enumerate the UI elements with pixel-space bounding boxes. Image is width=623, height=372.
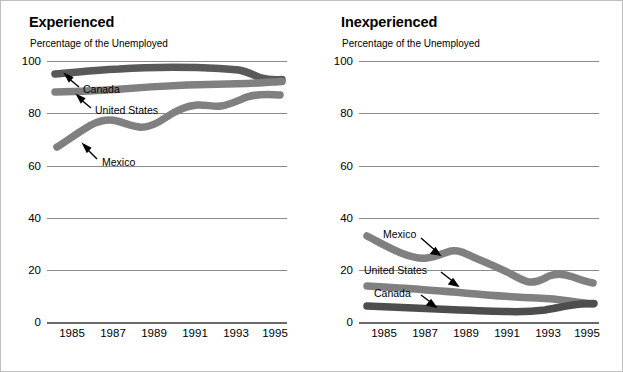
annotation-mexico: Mexico <box>383 228 416 240</box>
series-lines-experienced <box>47 61 287 323</box>
xtick-label: 1987 <box>412 327 438 339</box>
line-mexico <box>57 94 280 147</box>
annotation-united-states: United States <box>95 104 158 116</box>
xtick-label: 1989 <box>141 327 167 339</box>
panel-inexperienced: Inexperienced Percentage of the Unemploy… <box>313 1 623 372</box>
series-lines-inexperienced <box>359 61 599 323</box>
page-title: Inexperienced <box>341 14 437 30</box>
ytick-label: 100 <box>334 55 353 67</box>
ytick-label: 40 <box>340 212 353 224</box>
annotation-canada: Canada <box>83 83 120 95</box>
xtick-label: 1995 <box>574 327 600 339</box>
xtick-label: 1991 <box>494 327 520 339</box>
ytick-label: 60 <box>340 160 353 172</box>
annotation-united-states: United States <box>364 264 427 276</box>
ytick-label: 20 <box>340 264 353 276</box>
ytick-label: 80 <box>28 107 41 119</box>
xtick-label: 1993 <box>535 327 561 339</box>
line-canada <box>55 67 282 80</box>
xtick-label: 1989 <box>453 327 479 339</box>
panel-experienced: Experienced Percentage of the Unemployed… <box>1 1 312 372</box>
ytick-label: 80 <box>340 107 353 119</box>
xtick-label: 1985 <box>59 327 85 339</box>
annotation-canada: Canada <box>374 287 411 299</box>
line-canada <box>367 304 594 312</box>
plot-area-inexperienced: 100 80 60 40 20 0 <box>359 61 599 323</box>
xtick-label: 1995 <box>262 327 288 339</box>
xtick-label: 1993 <box>223 327 249 339</box>
ytick-label: 60 <box>28 160 41 172</box>
ytick-label: 0 <box>35 316 41 328</box>
ytick-label: 100 <box>22 55 41 67</box>
annotation-mexico: Mexico <box>102 156 135 168</box>
ytick-label: 40 <box>28 212 41 224</box>
chart-figure: Experienced Percentage of the Unemployed… <box>0 0 623 372</box>
panel-subtitle: Percentage of the Unemployed <box>30 38 168 49</box>
ytick-label: 0 <box>347 316 353 328</box>
xtick-label: 1985 <box>371 327 397 339</box>
ytick-label: 20 <box>28 264 41 276</box>
xtick-label: 1991 <box>182 327 208 339</box>
panel-subtitle: Percentage of the Unemployed <box>342 38 480 49</box>
plot-area-experienced: 100 80 60 40 20 0 <box>47 61 287 323</box>
xtick-label: 1987 <box>100 327 126 339</box>
page-title: Experienced <box>29 14 114 30</box>
